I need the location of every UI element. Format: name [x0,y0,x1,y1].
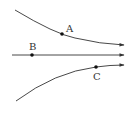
point-a [60,32,64,36]
point-c [94,65,98,69]
point-b [30,53,34,57]
lower-field-line [16,65,124,101]
field-line-diagram: A B C [0,0,133,115]
label-b: B [29,41,36,52]
label-a: A [65,23,74,34]
label-c: C [93,71,101,82]
